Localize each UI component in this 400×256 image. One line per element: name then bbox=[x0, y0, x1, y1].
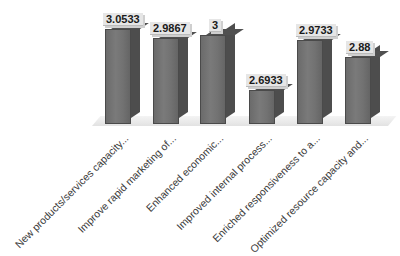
data-label: 2.88 bbox=[346, 41, 373, 54]
bar bbox=[249, 90, 275, 124]
bar-front bbox=[105, 29, 131, 124]
bar bbox=[297, 40, 323, 124]
bar-chart: 3.05332.986732.69332.97332.88 New produc… bbox=[0, 0, 400, 256]
bar-front bbox=[345, 57, 371, 124]
data-label: 3 bbox=[209, 19, 221, 32]
bar bbox=[105, 29, 131, 124]
bar-side bbox=[323, 28, 332, 118]
category-label: Improved internal process... bbox=[174, 132, 274, 232]
bar-front bbox=[249, 90, 275, 124]
bar bbox=[345, 57, 371, 124]
data-label: 3.0533 bbox=[103, 13, 143, 26]
bar-side bbox=[179, 26, 188, 118]
bar-side bbox=[226, 23, 235, 118]
data-label: 2.9867 bbox=[150, 22, 190, 35]
bar bbox=[153, 38, 179, 124]
bar bbox=[200, 35, 226, 124]
bar-front bbox=[297, 40, 323, 124]
data-label: 2.6933 bbox=[246, 74, 286, 87]
data-label: 2.9733 bbox=[296, 24, 336, 37]
bar-side bbox=[131, 17, 140, 118]
bar-front bbox=[153, 38, 179, 124]
category-label: Improve rapid marketing of... bbox=[75, 132, 178, 235]
bar-front bbox=[200, 35, 226, 124]
